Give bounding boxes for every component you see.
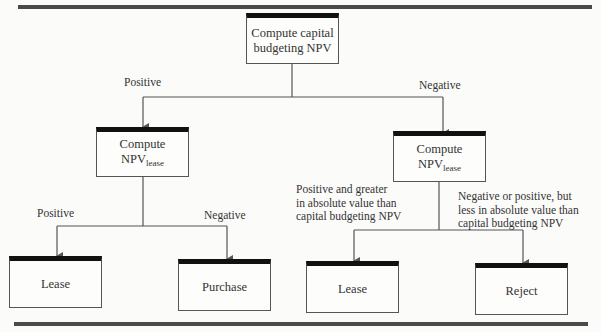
node-lease-right: Lease (306, 261, 399, 313)
root-line-2: budgeting NPV (251, 41, 333, 56)
node-reject: Reject (475, 263, 568, 315)
purchase-label: Purchase (202, 280, 247, 295)
node-compute-npv-lease-left: Compute NPVlease (96, 127, 189, 177)
node-compute-npv-lease-right: Compute NPVlease (393, 131, 486, 182)
edge-label-positive: Positive (124, 76, 161, 90)
node-lease-left: Lease (9, 256, 102, 308)
edge-label-negative: Negative (419, 79, 461, 93)
edge-label-right-negative-or-less: Negative or positive, but less in absolu… (458, 190, 579, 231)
edge-label-right-positive-greater: Positive and greater in absolute value t… (296, 183, 401, 224)
root-line-1: Compute capital (251, 26, 333, 41)
left-compute-line-2: NPVlease (120, 152, 166, 171)
edge-label-left-positive: Positive (37, 207, 74, 221)
right-compute-line-2: NPVlease (417, 157, 463, 176)
left-compute-line-1: Compute (120, 137, 166, 152)
right-compute-line-1: Compute (417, 142, 463, 157)
lease-left-label: Lease (41, 277, 70, 292)
lease-right-label: Lease (338, 282, 367, 297)
reject-label: Reject (506, 284, 538, 299)
edge-label-left-negative: Negative (204, 209, 246, 223)
node-purchase: Purchase (178, 259, 271, 311)
node-compute-capital-budgeting-npv: Compute capital budgeting NPV (246, 13, 339, 64)
